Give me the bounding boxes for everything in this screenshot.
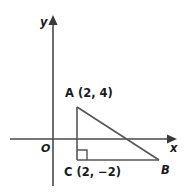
x-axis-label: x (170, 143, 177, 155)
triangle-hypotenuse-ab (77, 107, 159, 160)
y-axis-arrow-icon (48, 15, 57, 25)
point-a-label: A (2, 4) (65, 88, 113, 100)
origin-label: O (41, 143, 50, 154)
y-axis-label: y (40, 17, 48, 29)
right-angle-marker-icon (77, 150, 87, 160)
coordinate-diagram: y x O A (2, 4) C (2, −2) B (0, 0, 187, 193)
point-c-label: C (2, −2) (64, 167, 121, 179)
point-b-label: B (161, 165, 170, 177)
